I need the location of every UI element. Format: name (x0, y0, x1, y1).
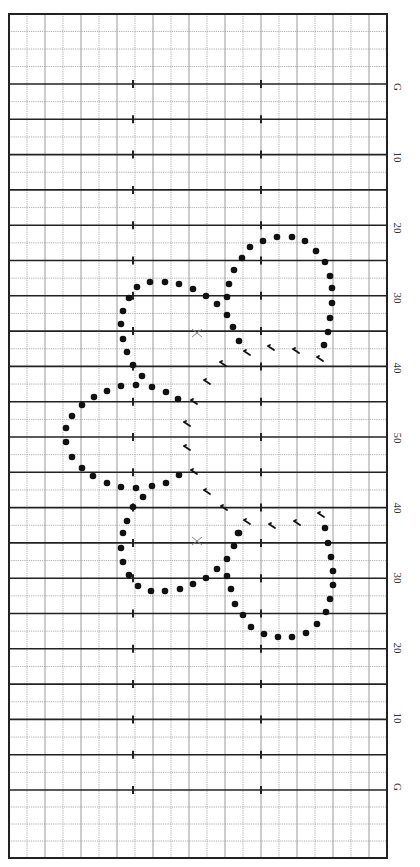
dot-stitch (163, 389, 170, 396)
dot-stitch (190, 581, 197, 588)
dot-stitch (314, 621, 321, 628)
row-label: 10 (388, 708, 408, 728)
dot-stitch (190, 286, 197, 293)
dot-stitch (118, 545, 125, 552)
cross-center-icon (192, 329, 202, 337)
dot-stitch (118, 484, 125, 491)
dot-stitch (203, 293, 210, 300)
grid-minor-lines (9, 14, 387, 858)
dot-stitch (330, 582, 337, 589)
dot-stitch (231, 267, 238, 274)
dot-stitch (329, 285, 336, 292)
dot-stitch (177, 586, 184, 593)
dot-stitch (322, 525, 329, 532)
hook-stitch-icon (244, 350, 250, 355)
dot-stitch (79, 465, 86, 472)
row-label: 30 (388, 568, 408, 588)
dot-stitch (120, 530, 127, 537)
dot-stitch (91, 394, 98, 401)
dot-stitch (120, 308, 127, 315)
dot-stitch (275, 634, 282, 641)
dot-stitch (239, 255, 246, 262)
row-label: G (388, 77, 408, 97)
dot-stitch (261, 631, 268, 638)
dot-stitch (162, 588, 169, 595)
dot-stitch (274, 234, 281, 241)
row-label: G (388, 777, 408, 797)
dot-stitch (232, 601, 239, 608)
dot-stitch (134, 284, 141, 291)
dot-stitch (79, 402, 86, 409)
row-label: 10 (388, 147, 408, 167)
dot-stitch (140, 494, 147, 501)
row-label: 20 (388, 218, 408, 238)
dot-stitch (126, 295, 133, 302)
dot-stitch (302, 238, 309, 245)
dot-stitch (328, 554, 335, 561)
dot-stitch (148, 588, 155, 595)
dot-stitch (214, 301, 221, 308)
dot-stitch (175, 396, 182, 403)
dot-stitch (325, 540, 332, 547)
dot-stitch (135, 583, 142, 590)
dot-stitch (289, 634, 296, 641)
row-label: 30 (388, 288, 408, 308)
dot-stitch (149, 483, 156, 490)
dot-stitch (248, 624, 255, 631)
grid-thick-lines (9, 84, 387, 790)
dot-stitch (118, 321, 125, 328)
cross-center-icon (192, 537, 202, 545)
dot-stitch (236, 338, 243, 345)
dot-stitch (120, 559, 127, 566)
dot-stitch (203, 575, 210, 582)
dot-stitch (133, 382, 140, 389)
dot-stitch (90, 473, 97, 480)
dot-stitch (126, 572, 133, 579)
dot-stitch (163, 480, 170, 487)
dot-stitch (228, 586, 235, 593)
dot-stitch (327, 315, 334, 322)
dot-stitch (247, 244, 254, 251)
dot-stitch (322, 259, 329, 266)
hook-stitch-icon (318, 512, 324, 517)
hook-stitch-icon (317, 356, 323, 361)
dot-stitch (260, 238, 267, 245)
dot-stitch (63, 439, 70, 446)
dot-stitch (124, 518, 131, 525)
dot-stitch (224, 573, 231, 580)
dot-stitch (162, 279, 169, 286)
dot-stitch (321, 342, 328, 349)
dot-stitch (63, 425, 70, 432)
row-label: 20 (388, 638, 408, 658)
dot-stitch (224, 312, 231, 319)
dot-stitch (130, 362, 137, 369)
dot-stitch (224, 294, 231, 301)
dot-stitch (104, 480, 111, 487)
dot-stitch (224, 556, 231, 563)
dot-stitch (149, 384, 156, 391)
dot-stitch (104, 388, 111, 395)
dot-stitch (133, 485, 140, 492)
dot-stitch (236, 530, 243, 537)
dot-stitch (231, 543, 238, 550)
stitch-chart (0, 0, 420, 867)
dot-stitch (130, 504, 137, 511)
row-label: 40 (388, 358, 408, 378)
dot-stitch (139, 373, 146, 380)
dot-stitch (323, 609, 330, 616)
dot-stitch (176, 281, 183, 288)
dot-stitch (329, 300, 336, 307)
dot-stitch (118, 383, 125, 390)
dot-stitch (226, 281, 233, 288)
dot-stitch (303, 630, 310, 637)
dot-stitch (327, 273, 334, 280)
hook-stitch-icon (244, 519, 250, 524)
hook-stitch-icon (268, 345, 274, 350)
dot-stitch (289, 234, 296, 241)
dot-stitch (69, 413, 76, 420)
dot-stitch (325, 329, 332, 336)
dot-stitch (69, 454, 76, 461)
dot-stitch (147, 279, 154, 286)
dot-stitch (124, 349, 131, 356)
dot-stitch (330, 568, 337, 575)
